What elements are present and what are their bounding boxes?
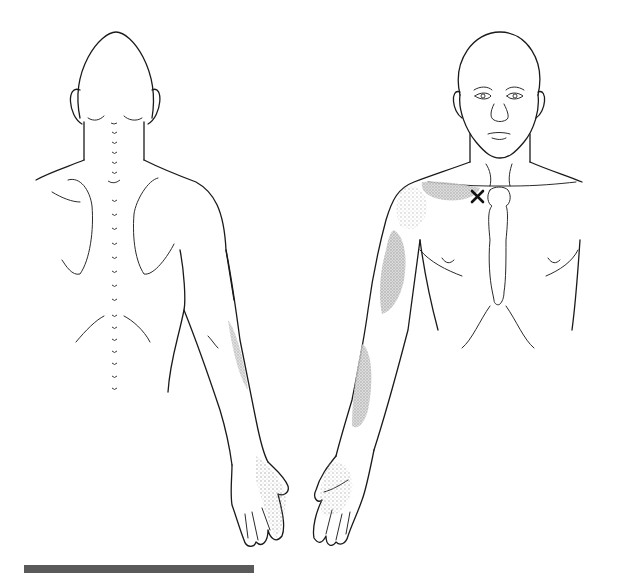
- shoulder-right-back: [144, 160, 234, 300]
- sternum: [488, 187, 510, 305]
- spine-vertebrae: [108, 123, 120, 390]
- posterior-figure: [36, 32, 288, 546]
- nose: [491, 104, 508, 122]
- scapula-left: [62, 179, 93, 274]
- arm-outer-back: [226, 250, 268, 462]
- referral-shading-back-forearm: [228, 320, 248, 390]
- pec-right: [546, 250, 578, 276]
- ear-left-back: [70, 89, 82, 124]
- mouth: [488, 133, 510, 135]
- referral-shading-front: [320, 181, 480, 515]
- anterior-figure: [313, 32, 582, 545]
- head-outline-back: [78, 32, 153, 118]
- shading-upper-arm: [380, 230, 406, 314]
- scale-bar: [24, 565, 254, 573]
- anatomy-diagram: [0, 0, 621, 584]
- scapula-right: [133, 178, 174, 274]
- trigger-point-marker: [472, 191, 483, 202]
- shoulder-left-back: [36, 160, 84, 180]
- head-outline-front: [458, 32, 539, 95]
- referral-shading-back-hand: [256, 456, 286, 538]
- ear-left-front: [453, 92, 462, 118]
- shading-shoulder: [397, 186, 427, 229]
- shoulder-right-front: [530, 162, 582, 182]
- arm-inner-back: [184, 310, 232, 465]
- shading-forearm: [352, 344, 371, 427]
- pec-left: [420, 250, 462, 276]
